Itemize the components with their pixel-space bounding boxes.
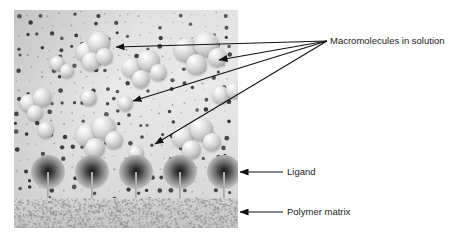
illustration-panel	[14, 10, 238, 228]
label-polymer-matrix: Polymer matrix	[287, 207, 350, 217]
label-ligand: Ligand	[287, 167, 316, 177]
label-macromolecules-in-solution: Macromolecules in solution	[330, 36, 445, 46]
ligand-layer	[14, 10, 238, 228]
figure-root: Macromolecules in solution Ligand Polyme…	[0, 0, 463, 239]
matrix-speckle-texture	[14, 198, 238, 228]
polymer-matrix	[14, 198, 238, 228]
